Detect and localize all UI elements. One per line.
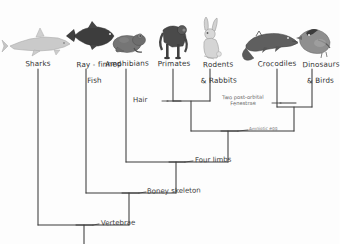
trait-label-hair: Hair [133,96,148,104]
trait-label-amniotic-egg: Amniotic egg [249,125,278,133]
trait-label-fenestrae: Two post-orbital Fenestrae [214,93,272,106]
trait-label-four-limbs: Four limbs [195,156,232,165]
trait-label-vertebrae: Vertebrae [101,219,136,228]
trait-label-boney-skeleton: Boney skeleton [147,187,201,196]
